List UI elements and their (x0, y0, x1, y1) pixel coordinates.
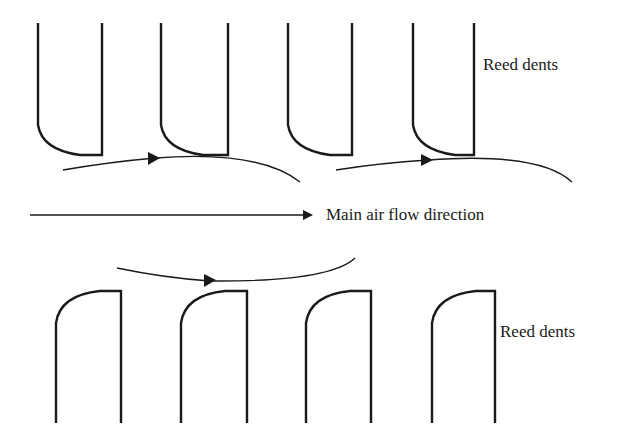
flow-curve-2 (336, 158, 572, 182)
bottom-reed-dent-2 (181, 291, 247, 423)
air-flow-curves (63, 156, 572, 281)
bottom-reed-dent-1 (56, 291, 121, 423)
arrowhead-icon (204, 274, 216, 287)
flow-curve-3 (117, 258, 355, 281)
top-reed-dent-2 (161, 23, 228, 155)
main-arrowhead-icon (303, 210, 313, 220)
arrowhead-icon (148, 152, 160, 165)
bottom-reed-dent-4 (432, 291, 495, 423)
flow-curve-1 (63, 156, 300, 182)
top-reed-dents-label: Reed dents (483, 55, 558, 75)
top-reed-dent-3 (288, 23, 352, 155)
top-reed-dent-1 (38, 23, 102, 155)
top-reed-dent-4 (413, 23, 474, 155)
bottom-reed-dent-3 (306, 291, 371, 423)
top-reed-dents (38, 23, 474, 155)
main-air-flow-label: Main air flow direction (326, 205, 484, 225)
arrowhead-icon (421, 154, 433, 166)
bottom-reed-dents-label: Reed dents (500, 322, 575, 342)
bottom-reed-dents (56, 291, 495, 423)
